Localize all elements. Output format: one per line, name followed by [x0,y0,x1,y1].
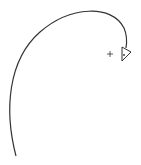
curved-arrow-line [10,11,127,156]
arrow-dot [123,54,125,56]
diagram-canvas [0,0,141,165]
arrowhead-icon [122,47,131,61]
crosshair-icon [107,51,113,57]
